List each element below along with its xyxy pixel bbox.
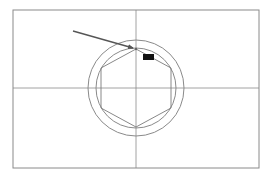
snap-tooltip [143,54,154,60]
snap-point-marker [135,48,137,50]
cad-drawing[interactable] [0,0,271,181]
pointer-arrow-icon [73,31,133,48]
drawing-canvas[interactable] [0,0,271,181]
